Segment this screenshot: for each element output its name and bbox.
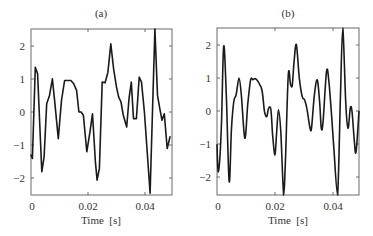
panel-a-xlabel: Time [s] <box>81 214 121 226</box>
panel-b-title: (b) <box>282 7 295 20</box>
panel-a-title: (a) <box>95 7 108 20</box>
xtick-label: 0 <box>29 200 35 212</box>
xtick-label: 0.02 <box>265 200 284 212</box>
ytick-label: 0 <box>206 105 212 117</box>
ytick-label: 2 <box>206 39 212 51</box>
ytick-label: −2 <box>13 172 25 184</box>
ytick-label: −1 <box>199 138 211 150</box>
panel-b-ytick-labels: 2 1 0 −1 −2 <box>199 39 211 183</box>
ytick-label: 1 <box>20 73 26 85</box>
panel-a-xtick-labels: 0 0.02 0.04 <box>29 200 155 212</box>
panel-b-axes-frame <box>217 28 359 195</box>
panel-b-yticks <box>217 45 359 177</box>
figure: (a) 2 1 0 −1 −2 0 0.02 0.04 Time [s] <box>0 0 373 236</box>
xtick-label: 0.04 <box>135 200 155 212</box>
panel-b-xtick-labels: 0 0.02 0.04 <box>215 200 343 212</box>
panel-b: (b) 2 1 0 −1 −2 0 0.02 0.04 Time [s] <box>199 7 359 226</box>
panel-a-signal-line <box>31 29 170 193</box>
xtick-label: 0 <box>215 200 221 212</box>
ytick-label: −1 <box>13 139 25 151</box>
panel-b-xlabel: Time [s] <box>268 214 308 226</box>
panel-a-ytick-labels: 2 1 0 −1 −2 <box>13 40 25 184</box>
xtick-label: 0.02 <box>78 200 97 212</box>
panel-b-signal-line <box>217 28 359 195</box>
ytick-label: 0 <box>20 106 26 118</box>
panel-a: (a) 2 1 0 −1 −2 0 0.02 0.04 Time [s] <box>13 7 172 226</box>
ytick-label: 1 <box>206 72 212 84</box>
ytick-label: 2 <box>20 40 26 52</box>
ytick-label: −2 <box>199 171 211 183</box>
xtick-label: 0.04 <box>323 200 343 212</box>
